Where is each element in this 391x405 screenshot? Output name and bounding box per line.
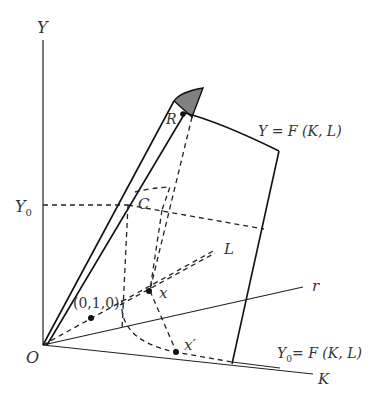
point-r [180, 111, 186, 117]
ray-to-x [120, 253, 215, 305]
surface-cap-shaded [174, 88, 203, 117]
label-origin: O [26, 348, 39, 367]
label-r-point: R [165, 111, 177, 127]
label-k: K [317, 370, 330, 388]
r-drop-dashed [150, 117, 192, 290]
k-axis [43, 345, 313, 374]
label-production-function: Y = F (K, L) [258, 123, 342, 139]
point-x [146, 288, 152, 294]
point-unit [88, 315, 94, 321]
label-c-point: C [138, 195, 150, 213]
label-isoquant: Y0= F (K, L) [277, 345, 362, 364]
production-function-diagram: Y O K L r Y0 R C x x′ (0,1,0) Y = F (K, … [0, 0, 391, 405]
label-unit-point: (0,1,0) [73, 295, 120, 311]
label-x-point: x [159, 284, 168, 302]
label-r: r [312, 277, 320, 295]
surface-edge-right [232, 151, 279, 364]
label-x-prime-point: x′ [184, 336, 196, 354]
point-x-prime [173, 349, 179, 355]
isoquant-bottom [232, 362, 280, 368]
label-y0: Y0 [15, 197, 32, 218]
label-y-axis: Y [37, 18, 49, 37]
c-drop-dashed [122, 205, 128, 330]
label-l: L [223, 240, 234, 258]
